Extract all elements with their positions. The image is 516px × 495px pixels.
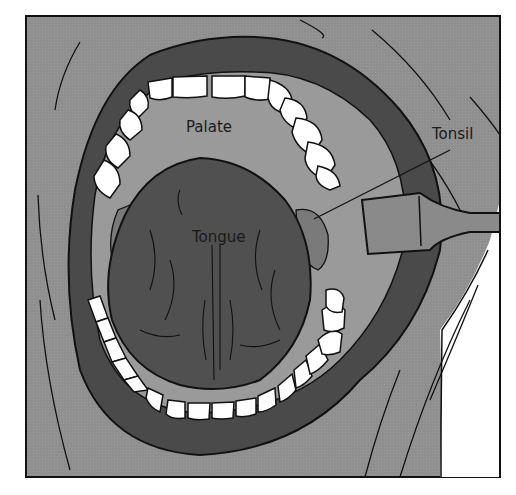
- tongue-label: Tongue: [191, 228, 246, 246]
- diagram-canvas: Palate Tongue Tonsil: [0, 0, 516, 495]
- palate-label: Palate: [186, 118, 232, 136]
- mouth-anatomy-diagram: Palate Tongue Tonsil: [0, 0, 516, 495]
- tonsil-label: Tonsil: [431, 125, 473, 143]
